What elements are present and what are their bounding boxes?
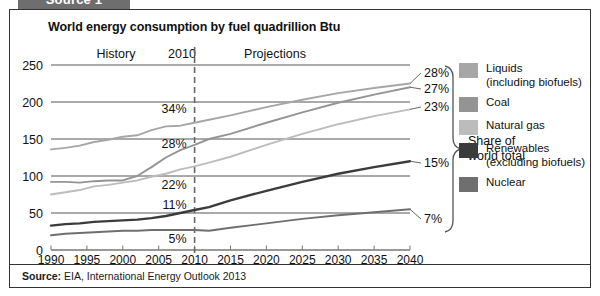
leader-line-4 [410, 209, 421, 219]
leader-line-1 [410, 87, 421, 89]
legend-swatch-liquids [459, 63, 478, 78]
series-line-3 [51, 161, 410, 225]
legend-swatch-renewables [459, 143, 478, 158]
x-tick-label-2000: 2000 [109, 253, 136, 264]
legend-item-natural-gas[interactable]: Natural gas [459, 119, 587, 135]
chart-legend: Liquids (including biofuels)CoalNatural … [459, 62, 587, 199]
x-tick-label-2035: 2035 [361, 253, 388, 264]
legend-label-liquids: Liquids (including biofuels) [486, 62, 582, 89]
share-label-2010-4: 5% [169, 232, 187, 246]
legend-swatch-nuclear [459, 177, 478, 192]
series-line-2 [51, 109, 410, 194]
x-tick-label-2020: 2020 [253, 253, 280, 264]
legend-label-coal: Coal [486, 96, 510, 110]
chart-card: World energy consumption by fuel quadril… [9, 9, 591, 288]
leader-line-2 [410, 107, 421, 109]
share-label-2040-1: 27% [424, 82, 449, 96]
y-tick-label-250: 250 [22, 59, 43, 73]
share-label-2040-3: 15% [424, 156, 449, 170]
share-label-2040-0: 28% [424, 66, 449, 80]
leader-line-0 [410, 73, 421, 84]
y-tick-label-200: 200 [22, 96, 43, 110]
annotation-divider-year: 2010 [168, 47, 196, 61]
x-tick-label-2015: 2015 [217, 253, 244, 264]
legend-label-nuclear: Nuclear [486, 176, 526, 190]
legend-item-renewables[interactable]: Renewables (excluding biofuels) [459, 142, 587, 169]
x-tick-label-2030: 2030 [325, 253, 352, 264]
legend-label-renewables: Renewables (excluding biofuels) [486, 142, 585, 169]
source-note-prefix: Source: [22, 270, 61, 282]
legend-item-coal[interactable]: Coal [459, 96, 587, 112]
share-label-2040-4: 7% [424, 212, 442, 226]
legend-item-nuclear[interactable]: Nuclear [459, 176, 587, 192]
legend-item-liquids[interactable]: Liquids (including biofuels) [459, 62, 587, 89]
x-tick-label-2025: 2025 [289, 253, 316, 264]
source-note-text: EIA, International Energy Outlook 2013 [61, 270, 246, 282]
annotation-projections: Projections [244, 47, 306, 61]
annotation-history: History [97, 47, 137, 61]
y-tick-label-50: 50 [29, 207, 43, 221]
screenshot-root: Source 1 World energy consumption by fue… [0, 0, 600, 296]
legend-swatch-coal [459, 97, 478, 112]
y-tick-label-150: 150 [22, 133, 43, 147]
leader-line-3 [410, 161, 421, 163]
x-tick-label-2005: 2005 [145, 253, 172, 264]
x-tick-label-2010: 2010 [181, 253, 208, 264]
x-tick-label-2040: 2040 [397, 253, 424, 264]
legend-label-natural-gas: Natural gas [486, 119, 545, 133]
share-label-2010-0: 34% [162, 102, 187, 116]
share-label-2010-2: 22% [162, 178, 187, 192]
share-label-2010-1: 28% [162, 137, 187, 151]
x-tick-label-1995: 1995 [74, 253, 101, 264]
share-label-2040-2: 23% [424, 100, 449, 114]
source-note: Source: EIA, International Energy Outloo… [22, 270, 246, 282]
share-label-2010-3: 11% [163, 198, 187, 212]
footer-divider [10, 264, 590, 265]
x-tick-label-1990: 1990 [38, 253, 65, 264]
legend-swatch-natural-gas [459, 120, 478, 135]
y-tick-label-100: 100 [22, 170, 43, 184]
source-tab-label: Source 1 [46, 0, 103, 7]
